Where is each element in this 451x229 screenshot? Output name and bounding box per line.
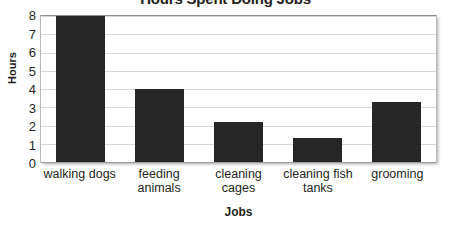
bar-slot xyxy=(278,16,357,162)
bar-slot xyxy=(199,16,278,162)
bar xyxy=(372,102,421,162)
chart-title: Hours Spent Doing Jobs xyxy=(0,0,451,7)
x-tick-label: cleaning fish tanks xyxy=(278,167,357,195)
bar xyxy=(214,122,263,162)
y-tick-label: 1 xyxy=(20,138,36,151)
y-tick-label: 3 xyxy=(20,101,36,114)
bar-slot xyxy=(120,16,199,162)
bars-layer xyxy=(41,16,436,162)
bar-chart-figure: Hours Spent Doing Jobs Hours 876543210 w… xyxy=(0,0,451,229)
y-tick-label: 6 xyxy=(20,46,36,59)
bar-slot xyxy=(41,16,120,162)
x-tick-label: feeding animals xyxy=(119,167,198,195)
y-tick-label: 5 xyxy=(20,64,36,77)
y-axis-title: Hours xyxy=(6,38,18,98)
gridline xyxy=(41,162,436,163)
bar-slot xyxy=(357,16,436,162)
x-axis-tick-labels: walking dogsfeeding animalscleaning cage… xyxy=(40,167,437,195)
y-tick-label: 8 xyxy=(20,9,36,22)
y-tick-label: 4 xyxy=(20,83,36,96)
y-tick-label: 0 xyxy=(20,157,36,170)
bar xyxy=(293,138,342,162)
y-tick-label: 7 xyxy=(20,27,36,40)
y-axis-tick-labels: 876543210 xyxy=(20,15,36,163)
x-tick-label: grooming xyxy=(358,167,437,195)
plot-area xyxy=(40,15,437,163)
bar xyxy=(56,16,105,162)
x-tick-label: walking dogs xyxy=(40,167,119,195)
x-tick-label: cleaning cages xyxy=(199,167,278,195)
x-axis-title: Jobs xyxy=(40,205,437,219)
y-tick-label: 2 xyxy=(20,120,36,133)
bar xyxy=(135,89,184,162)
